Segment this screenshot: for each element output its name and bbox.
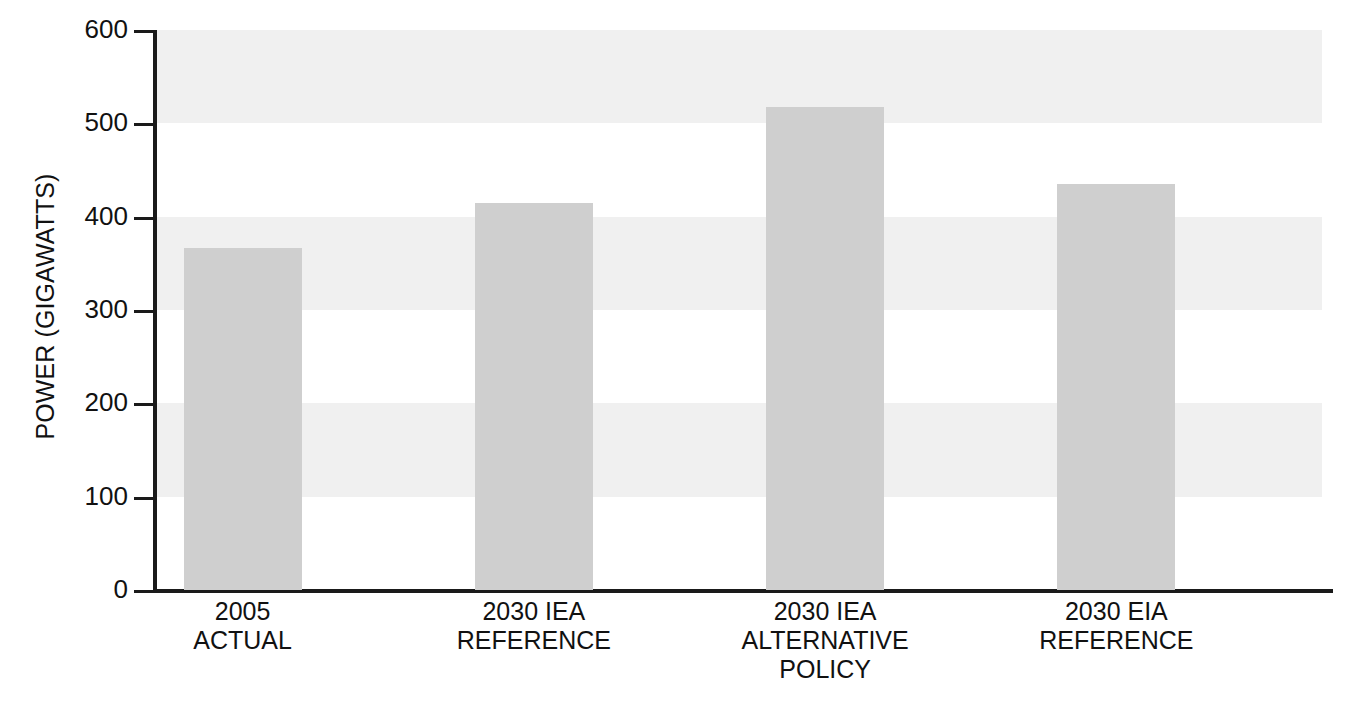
x-category-label-line: 2005 [94,597,392,626]
y-tick-mark-0 [134,590,155,593]
y-tick-label-500: 500 [38,109,128,135]
background-band-500-600 [157,30,1322,123]
bar-1 [475,203,593,590]
x-category-label-3: 2030 EIAREFERENCE [967,597,1265,655]
bar-chart: POWER (GIGAWATTS) 0100200300400500600 20… [0,0,1346,701]
y-tick-mark-500 [134,123,155,126]
y-tick-label-600: 600 [38,16,128,42]
x-category-label-1: 2030 IEAREFERENCE [385,597,683,655]
x-axis-category-labels: 2005ACTUAL2030 IEAREFERENCE2030 IEAALTER… [157,597,1322,701]
x-category-label-line: ALTERNATIVE [676,626,974,655]
y-tick-mark-600 [134,30,155,33]
y-axis-tick-labels: 0100200300400500600 [38,0,128,701]
y-tick-label-200: 200 [38,389,128,415]
y-tick-label-300: 300 [38,296,128,322]
y-tick-mark-300 [134,310,155,313]
plot-area [157,30,1322,590]
y-tick-label-400: 400 [38,203,128,229]
x-category-label-0: 2005ACTUAL [94,597,392,655]
x-category-label-line: REFERENCE [967,626,1265,655]
x-category-label-line: 2030 IEA [676,597,974,626]
x-category-label-line: POLICY [676,655,974,684]
y-tick-mark-400 [134,217,155,220]
x-category-label-line: REFERENCE [385,626,683,655]
y-tick-label-100: 100 [38,483,128,509]
x-category-label-line: 2030 IEA [385,597,683,626]
x-category-label-line: ACTUAL [94,626,392,655]
x-category-label-2: 2030 IEAALTERNATIVEPOLICY [676,597,974,684]
bar-3 [1057,184,1175,590]
y-tick-mark-100 [134,497,155,500]
y-tick-mark-200 [134,403,155,406]
bar-0 [184,248,302,590]
bar-2 [766,107,884,590]
x-category-label-line: 2030 EIA [967,597,1265,626]
